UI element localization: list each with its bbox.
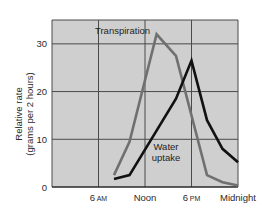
y-axis-label-line1: Relative rate	[13, 87, 24, 140]
x-tick-midnight: Midnight	[220, 192, 256, 203]
x-tick-6: 6 AM	[90, 192, 108, 203]
y-tick-0: 0	[42, 182, 47, 193]
x-tick-noon: Noon	[134, 192, 157, 203]
water-uptake-label-line2: uptake	[152, 152, 181, 163]
line-chart: 0102030 6 AMNoon6 PMMidnight Relative ra…	[0, 0, 262, 212]
transpiration-label: Transpiration	[95, 25, 150, 36]
water-uptake-label-line1: Water	[154, 141, 179, 152]
x-axis-ticks: 6 AMNoon6 PMMidnight	[90, 192, 256, 203]
y-tick-30: 30	[36, 38, 47, 49]
y-axis-label-line2: (grams per 2 hours)	[24, 72, 35, 155]
x-tick-6: 6 PM	[183, 192, 201, 203]
y-tick-10: 10	[36, 134, 47, 145]
y-axis-ticks: 0102030	[36, 38, 47, 192]
y-tick-20: 20	[36, 86, 47, 97]
